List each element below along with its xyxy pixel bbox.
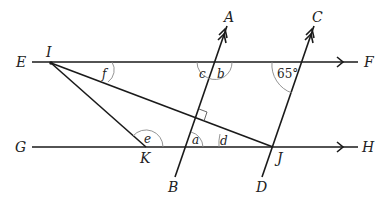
angle-label-b: b [217,67,225,81]
label-e: E [15,54,26,70]
label-h: H [361,139,375,155]
arc-f [108,62,114,82]
angle-label-e: e [144,132,151,146]
segment-ij [51,63,273,147]
label-b-point: B [167,179,178,195]
line-ab [175,26,227,177]
label-g: G [15,139,26,155]
point-i [49,61,53,65]
label-a-point: A [222,9,234,25]
angle-label-a: a [192,133,199,147]
angle-label-65: 65° [277,67,298,81]
angle-label-d: d [220,134,228,148]
segment-ik [51,63,146,147]
angle-label-f: f [101,67,109,81]
label-k: K [139,150,152,166]
angle-label-c: c [199,67,206,81]
label-j: J [274,150,284,166]
label-d-point: D [255,179,267,195]
line-cd [262,26,314,177]
label-i: I [45,44,52,60]
geometry-diagram: E F G H A B C D I J K f c b 65° e a d [0,0,389,212]
label-c-point: C [312,9,323,25]
label-f: F [363,54,375,70]
